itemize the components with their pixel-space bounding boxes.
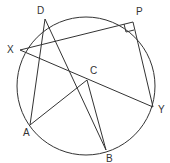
segment-PY [133, 22, 153, 107]
segment-XY [20, 50, 153, 107]
label-D: D [37, 5, 44, 16]
right-angle-marker [124, 24, 134, 32]
label-Y: Y [158, 104, 165, 115]
label-B: B [106, 153, 113, 163]
geometry-diagram: D P X C A B Y [0, 0, 170, 163]
label-X: X [7, 44, 14, 55]
label-A: A [23, 127, 30, 138]
label-P: P [136, 6, 143, 17]
segment-XP [20, 22, 133, 50]
circle [17, 17, 155, 155]
label-C: C [90, 65, 97, 76]
segment-AC [30, 80, 87, 125]
segment-DA [30, 19, 45, 125]
segment-DB [45, 19, 106, 150]
